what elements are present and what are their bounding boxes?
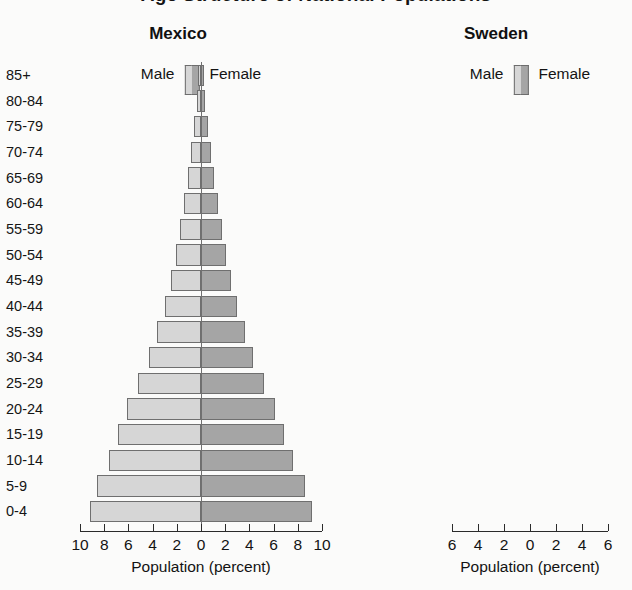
axis-line-sweden <box>452 531 608 532</box>
x-axis-title-mexico: Population (percent) <box>131 558 271 576</box>
bar-female-55-59 <box>201 219 222 241</box>
panel-title-mexico: Mexico <box>0 24 358 44</box>
bar-female-60-64 <box>201 193 218 215</box>
legend-sweden: Male Female <box>470 63 590 85</box>
x-tick <box>322 524 323 531</box>
panel-mexico: Mexico Male Female Population (percent) … <box>0 0 360 590</box>
x-tick-label: 8 <box>100 536 109 554</box>
bar-male-50-54 <box>176 244 201 266</box>
bar-male-25-29 <box>138 373 201 395</box>
bar-male-5-9 <box>97 475 201 497</box>
bar-male-45-49 <box>171 270 201 292</box>
x-tick <box>128 524 129 531</box>
x-tick-label: 2 <box>221 536 230 554</box>
bar-female-20-24 <box>201 398 275 420</box>
x-axis-title-sweden: Population (percent) <box>460 558 600 576</box>
legend-label-female-sweden: Female <box>538 66 590 82</box>
x-tick-label: 6 <box>604 536 613 554</box>
bar-female-30-34 <box>201 347 253 369</box>
x-tick <box>104 524 105 531</box>
x-tick-label: 4 <box>245 536 254 554</box>
x-tick <box>478 524 479 531</box>
x-tick-label: 6 <box>124 536 133 554</box>
panel-sweden: Sweden Male Female Population (percent) … <box>360 0 632 590</box>
x-tick <box>274 524 275 531</box>
bar-male-35-39 <box>157 321 201 343</box>
x-tick-label: 8 <box>293 536 302 554</box>
bar-female-5-9 <box>201 475 305 497</box>
x-tick-label: 4 <box>578 536 587 554</box>
x-tick <box>80 524 81 531</box>
x-tick <box>153 524 154 531</box>
legend-swatch-male-half <box>513 65 521 95</box>
bar-male-60-64 <box>184 193 201 215</box>
x-tick <box>177 524 178 531</box>
x-tick-label: 4 <box>474 536 483 554</box>
bar-male-75-79 <box>194 116 201 138</box>
legend-label-male-sweden: Male <box>470 66 504 82</box>
x-tick <box>225 524 226 531</box>
bar-female-50-54 <box>201 244 226 266</box>
plot-area-mexico <box>80 62 322 524</box>
center-axis-mexico <box>201 62 202 524</box>
x-tick-label: 2 <box>552 536 561 554</box>
x-tick-label: 10 <box>71 536 88 554</box>
x-tick <box>582 524 583 531</box>
x-tick-label: 6 <box>448 536 457 554</box>
bar-male-10-14 <box>109 450 201 472</box>
bar-female-15-19 <box>201 424 284 446</box>
bar-male-55-59 <box>180 219 201 241</box>
x-tick <box>452 524 453 531</box>
x-tick-label: 2 <box>172 536 181 554</box>
x-tick <box>201 524 202 531</box>
x-tick <box>298 524 299 531</box>
bar-female-25-29 <box>201 373 264 395</box>
x-tick-label: 4 <box>148 536 157 554</box>
x-tick <box>504 524 505 531</box>
bar-male-30-34 <box>149 347 201 369</box>
x-tick-label: 6 <box>269 536 278 554</box>
bar-female-45-49 <box>201 270 231 292</box>
bar-male-15-19 <box>118 424 201 446</box>
axis-line-mexico <box>80 531 322 532</box>
bar-female-0-4 <box>201 501 312 523</box>
x-tick-label: 10 <box>313 536 330 554</box>
x-tick-label: 2 <box>500 536 509 554</box>
bar-female-65-69 <box>201 167 214 189</box>
bar-male-65-69 <box>188 167 201 189</box>
x-tick <box>530 524 531 531</box>
legend-swatch-sweden <box>513 65 528 95</box>
bar-female-35-39 <box>201 321 245 343</box>
x-tick-label: 0 <box>197 536 206 554</box>
bar-male-20-24 <box>127 398 201 420</box>
legend-swatch-female-half <box>521 65 529 95</box>
bar-female-40-44 <box>201 296 237 318</box>
x-tick <box>556 524 557 531</box>
bar-male-0-4 <box>90 501 201 523</box>
bar-male-70-74 <box>191 142 201 164</box>
panel-title-sweden: Sweden <box>360 24 632 44</box>
x-tick <box>608 524 609 531</box>
x-tick-label: 0 <box>526 536 535 554</box>
bar-female-70-74 <box>201 142 211 164</box>
bar-female-10-14 <box>201 450 293 472</box>
bar-male-40-44 <box>165 296 201 318</box>
x-tick <box>249 524 250 531</box>
